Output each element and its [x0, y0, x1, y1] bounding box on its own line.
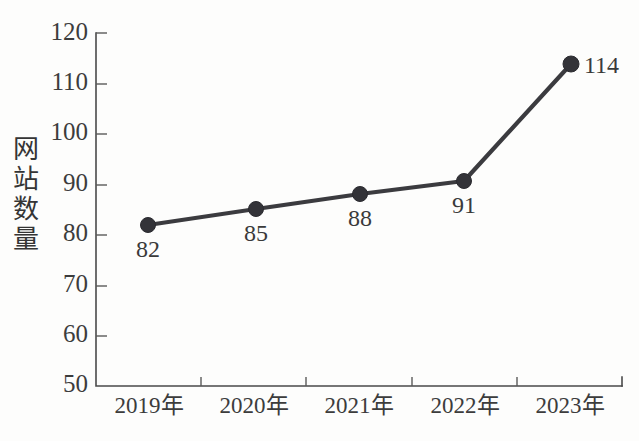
- y-axis-ticks: [96, 33, 107, 336]
- y-tick-label-110: 110: [51, 68, 88, 95]
- data-point-2022[interactable]: [457, 174, 472, 189]
- x-tick-label-2023: 2023年: [536, 393, 605, 418]
- y-axis-title-char-3: 量: [13, 225, 39, 254]
- data-label-2019: 82: [136, 236, 160, 262]
- x-tick-label-2019: 2019年: [115, 393, 184, 418]
- x-tick-label-2021: 2021年: [325, 393, 394, 418]
- y-tick-label-60: 60: [63, 320, 88, 347]
- y-axis-title: 网 站 数 量: [13, 135, 39, 254]
- y-tick-label-50: 50: [63, 370, 88, 397]
- y-tick-label-90: 90: [63, 169, 88, 196]
- x-axis-ticks: [201, 377, 517, 386]
- y-axis-tick-labels: 120 110 100 90 80 70 60 50: [51, 18, 89, 397]
- y-tick-label-100: 100: [51, 118, 89, 145]
- y-axis-title-char-2: 数: [13, 195, 39, 224]
- y-tick-label-120: 120: [51, 18, 89, 45]
- y-tick-label-80: 80: [63, 219, 88, 246]
- x-axis-tick-labels: 2019年 2020年 2021年 2022年 2023年: [115, 393, 605, 418]
- data-point-2023[interactable]: [563, 56, 579, 72]
- x-tick-label-2020: 2020年: [220, 393, 289, 418]
- data-point-labels: 82 85 88 91 114: [136, 52, 619, 262]
- y-axis-title-char-0: 网: [13, 135, 39, 164]
- chart-page: 网 站 数 量 120 110 100 90 80 70 60 50: [0, 0, 639, 441]
- line-chart: 网 站 数 量 120 110 100 90 80 70 60 50: [0, 0, 639, 441]
- data-label-2020: 85: [244, 220, 268, 246]
- x-tick-label-2022: 2022年: [431, 393, 500, 418]
- data-label-2023: 114: [584, 52, 619, 78]
- data-label-2022: 91: [452, 192, 476, 218]
- data-point-2019[interactable]: [141, 218, 156, 233]
- data-point-2020[interactable]: [249, 202, 264, 217]
- y-axis-title-char-1: 站: [13, 165, 39, 194]
- data-point-2021[interactable]: [353, 187, 368, 202]
- y-tick-label-70: 70: [63, 270, 88, 297]
- data-label-2021: 88: [348, 205, 372, 231]
